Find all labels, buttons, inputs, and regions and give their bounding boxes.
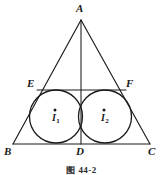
label-point-c: C	[148, 146, 155, 157]
triangle-side-ac	[81, 20, 150, 144]
geometry-figure: A B C D E F I1 I2 图 44-2	[0, 0, 163, 175]
label-point-a: A	[76, 3, 83, 14]
label-circle-center-i2: I2	[101, 113, 108, 123]
figure-caption: 图 44-2	[0, 166, 163, 175]
label-i1-subscript: 1	[56, 117, 60, 125]
label-point-d: D	[76, 146, 84, 157]
label-circle-center-i1: I1	[52, 113, 59, 123]
triangle-side-ab	[13, 20, 81, 144]
label-point-b: B	[4, 146, 11, 157]
label-point-e: E	[27, 78, 34, 89]
label-point-f: F	[126, 78, 133, 89]
label-i2-subscript: 2	[105, 117, 109, 125]
